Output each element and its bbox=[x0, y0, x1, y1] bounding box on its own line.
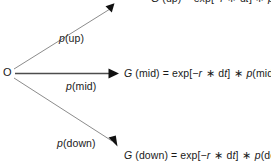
origin-node-label: O bbox=[3, 67, 12, 78]
branch-label-down: p(down) bbox=[57, 138, 96, 149]
equation-down-mul1: ∗ bbox=[210, 149, 226, 161]
equation-up-equals: = bbox=[181, 0, 193, 4]
branch-label-down-arg: (down) bbox=[63, 137, 96, 149]
equation-down-prob-arg: (down) bbox=[261, 149, 271, 161]
equation-mid: G (mid) = exp[−r ∗ dt] ∗ p(mid) bbox=[124, 68, 271, 79]
equation-up: G (up) = exp[−r ∗ dt] ∗ p(up) bbox=[151, 0, 271, 4]
equation-up-prob-var: p bbox=[268, 0, 271, 4]
equation-mid-mul1: ∗ bbox=[202, 67, 218, 79]
branch-lines-group bbox=[0, 0, 271, 164]
equation-up-mul2: ∗ bbox=[252, 0, 268, 4]
arrowhead-down-icon bbox=[109, 135, 118, 146]
equation-down-equals: = bbox=[168, 149, 180, 161]
equation-mid-lhs-arg: (mid) bbox=[132, 67, 159, 79]
branch-label-mid-arg: (mid) bbox=[72, 80, 96, 92]
branch-label-up-arg: (up) bbox=[65, 32, 84, 44]
equation-down-exp: exp[ bbox=[180, 149, 200, 161]
branch-label-up: p(up) bbox=[59, 33, 84, 44]
equation-mid-exp: exp[ bbox=[172, 67, 192, 79]
equation-down: G (down) = exp[−r ∗ dt] ∗ p(down) bbox=[124, 150, 271, 161]
equation-mid-mul2: ∗ bbox=[230, 67, 246, 79]
equation-down-lhs-arg: (down) bbox=[132, 149, 168, 161]
diagram-canvas: O p(up) p(mid) p(down) G (up) = exp[−r ∗… bbox=[0, 0, 271, 164]
equation-up-mul1: ∗ bbox=[224, 0, 240, 4]
equation-up-lhs-arg: (up) bbox=[159, 0, 181, 4]
branch-line-down bbox=[14, 78, 112, 141]
equation-down-mul2: ∗ bbox=[239, 149, 255, 161]
branch-label-mid: p(mid) bbox=[66, 81, 96, 92]
arrowhead-mid-icon bbox=[109, 68, 120, 78]
equation-mid-prob-arg: (mid) bbox=[252, 67, 271, 79]
equation-up-exp: exp[ bbox=[194, 0, 214, 4]
equation-mid-equals: = bbox=[160, 67, 172, 79]
